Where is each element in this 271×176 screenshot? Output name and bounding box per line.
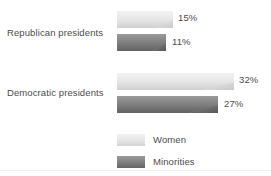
category-label-republican-presidents: Republican presidents xyxy=(7,27,103,38)
bottom-divider xyxy=(0,170,271,171)
bar-republican-minorities xyxy=(117,34,166,51)
value-label-republican-women: 15% xyxy=(178,12,197,23)
bar-republican-women xyxy=(117,11,173,28)
bar-democratic-women xyxy=(117,73,234,90)
legend-label-minorities: Minorities xyxy=(153,156,195,168)
value-label-democratic-minorities: 27% xyxy=(224,98,243,109)
legend-swatch-minorities-icon xyxy=(117,156,145,168)
legend-label-women: Women xyxy=(153,134,186,146)
value-label-democratic-women: 32% xyxy=(239,74,258,85)
bar-democratic-minorities xyxy=(117,96,218,113)
legend-swatch-women-icon xyxy=(117,134,145,146)
value-label-republican-minorities: 11% xyxy=(172,36,191,47)
category-label-democratic-presidents: Democratic presidents xyxy=(7,87,104,98)
grouped-bar-chart: Republican presidents Democratic preside… xyxy=(0,0,271,176)
